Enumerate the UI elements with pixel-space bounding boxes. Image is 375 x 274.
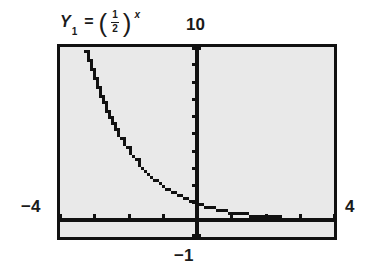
function-label-equals: =: [84, 14, 93, 30]
fraction-denominator: 2: [111, 24, 119, 35]
x-axis-tick: [128, 214, 131, 219]
xmin-label: −4: [21, 198, 40, 215]
ymax-label: 10: [186, 16, 205, 33]
calculator-screen: [57, 44, 337, 240]
ymin-label: −1: [174, 247, 193, 264]
x-axis-tick: [333, 214, 334, 219]
fraction-numerator: 1: [111, 10, 119, 21]
function-label-paren-close: ): [123, 13, 132, 34]
x-axis-tick: [162, 214, 165, 219]
y-axis-tick: [192, 98, 197, 101]
function-label-paren-open: (: [99, 13, 108, 34]
xmax-label: 4: [345, 198, 354, 215]
calculator-graph-figure: Y1 = ( 1 2 )x 10 −4 4 −1: [0, 0, 375, 274]
y-axis-tick: [192, 236, 197, 237]
curve-Y1 = (1/2)^x: [84, 50, 334, 221]
y-axis-tick: [192, 47, 197, 49]
y-axis-tick: [192, 81, 197, 84]
function-label-fraction: 1 2: [111, 10, 119, 34]
y-axis-tick: [192, 115, 197, 118]
x-axis-tick: [93, 214, 96, 219]
function-label-subscript: 1: [72, 27, 78, 37]
screen-plot-area: [60, 47, 334, 237]
x-axis-tick: [299, 214, 302, 219]
plot-svg: [60, 47, 334, 237]
y-axis-tick: [192, 63, 197, 66]
function-label-y: Y: [60, 14, 71, 30]
function-label-exponent: x: [134, 10, 140, 20]
y-axis-tick: [192, 184, 197, 187]
y-axis-tick: [192, 150, 197, 153]
x-axis-tick: [60, 214, 62, 219]
y-axis: [195, 47, 199, 237]
y-axis-tick: [192, 132, 197, 135]
y-axis-tick: [192, 167, 197, 170]
function-label: Y1 = ( 1 2 )x: [60, 10, 140, 34]
